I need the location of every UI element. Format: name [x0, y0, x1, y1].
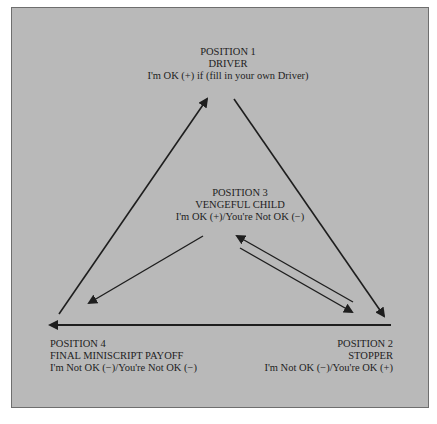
position-4-statement: I'm Not OK (−)/You're Not OK (−) — [50, 362, 197, 374]
position-3-name: VENGEFUL CHILD — [135, 199, 345, 211]
position-3-label: POSITION 3 VENGEFUL CHILD I'm OK (+)/You… — [135, 187, 345, 223]
position-1-statement: I'm OK (+) if (fill in your own Driver) — [108, 70, 348, 82]
position-2-title: POSITION 2 — [264, 338, 393, 350]
position-2-label: POSITION 2 STOPPER I'm Not OK (−)/You're… — [264, 338, 393, 374]
position-4-label: POSITION 4 FINAL MINISCRIPT PAYOFF I'm N… — [50, 338, 197, 374]
arrow-position3-to-position2 — [240, 248, 352, 312]
position-2-name: STOPPER — [264, 350, 393, 362]
position-1-name: DRIVER — [108, 58, 348, 70]
position-3-statement: I'm OK (+)/You're Not OK (−) — [135, 211, 345, 223]
position-4-name: FINAL MINISCRIPT PAYOFF — [50, 350, 197, 362]
position-3-title: POSITION 3 — [135, 187, 345, 199]
position-4-title: POSITION 4 — [50, 338, 197, 350]
position-1-title: POSITION 1 — [108, 46, 348, 58]
position-2-statement: I'm Not OK (−)/You're OK (+) — [264, 362, 393, 374]
position-1-label: POSITION 1 DRIVER I'm OK (+) if (fill in… — [108, 46, 348, 82]
